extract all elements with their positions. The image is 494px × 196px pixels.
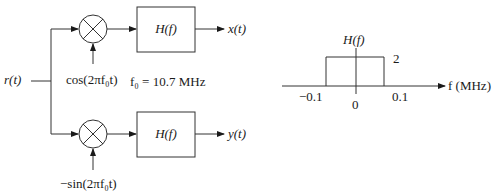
- tick-pos: 0.1: [392, 89, 408, 105]
- plot-xlabel: f (MHz): [448, 78, 491, 94]
- top-oscillator-label: cos(2πf₀t): [66, 72, 118, 88]
- rect-response: [326, 57, 384, 86]
- bottom-filter-label: H(f): [137, 126, 195, 142]
- top-output-label: x(t): [228, 21, 246, 37]
- input-label: r(t): [4, 72, 21, 88]
- carrier-frequency-note: f₀ = 10.7 MHz: [130, 74, 205, 90]
- tick-neg: −0.1: [299, 89, 323, 105]
- bottom-output-label: y(t): [228, 126, 246, 142]
- top-filter-label: H(f): [137, 21, 195, 37]
- plot-amplitude: 2: [393, 51, 400, 67]
- bottom-oscillator-label: −sin(2πf₀t): [60, 176, 117, 192]
- plot-ylabel: H(f): [343, 32, 365, 48]
- diagram-canvas: [0, 0, 494, 196]
- tick-zero: 0: [352, 97, 359, 113]
